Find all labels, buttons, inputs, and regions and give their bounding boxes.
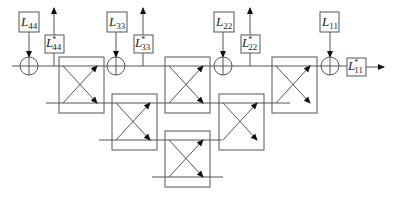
label-box-L33: L33 [107,12,127,32]
signal-lines [12,8,384,177]
label-box-L22star: L*22 [241,35,260,53]
label-box-L44: L44 [19,12,39,32]
rotation-cell [59,57,104,113]
label-box-L11star: L*11 [347,58,366,76]
rotation-cells [59,57,317,187]
lattice-diagram: L44 L33 L22 L11 L*44 L*33 L*22 [0,0,394,201]
rotation-cell [272,57,317,113]
adder-icon [107,57,125,75]
input-labels: L44 L33 L22 L11 [19,12,339,32]
rotation-cell [165,57,210,113]
adder-icon [321,57,339,75]
label-box-L22: L22 [214,12,234,32]
adder-icon [20,57,38,75]
rotation-cell [219,94,264,150]
rotation-cell [112,94,157,150]
label-box-L44star: L*44 [45,35,64,53]
rotation-cell [165,131,210,187]
adder-icon [214,57,232,75]
label-box-L33star: L*33 [134,35,153,53]
label-box-L11: L11 [320,12,339,32]
